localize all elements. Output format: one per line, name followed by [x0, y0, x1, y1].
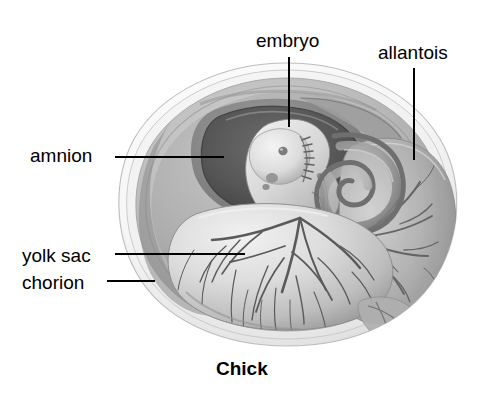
- label-amnion: amnion: [30, 146, 92, 165]
- chick-embryo-figure: embryo allantois amnion yolk sac chorion…: [0, 0, 490, 399]
- figure-caption: Chick: [216, 359, 268, 378]
- embryo-eye: [278, 147, 287, 155]
- embryo-limb-bud: [262, 184, 269, 190]
- label-embryo: embryo: [256, 31, 319, 50]
- label-yolk-sac: yolk sac: [22, 246, 91, 265]
- label-allantois: allantois: [378, 43, 448, 62]
- embryo-eye-highlight: [280, 148, 283, 151]
- embryo-beak-bud: [266, 173, 278, 183]
- label-chorion: chorion: [22, 273, 84, 292]
